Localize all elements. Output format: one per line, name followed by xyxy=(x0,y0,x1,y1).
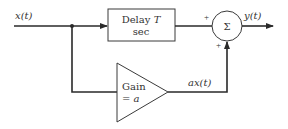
gain-label-line2: = a xyxy=(122,93,140,104)
delay-label-line2: sec xyxy=(133,26,150,37)
gain-output-label: ax(t) xyxy=(188,77,212,88)
sign-top: + xyxy=(204,12,209,22)
input-label: x(t) xyxy=(15,10,33,21)
output-label: y(t) xyxy=(243,10,262,21)
sigma-icon: Σ xyxy=(223,21,230,32)
delay-gain-block-diagram: x(t) Delay T sec + Σ y(t) Gain = a ax(t)… xyxy=(0,0,288,129)
delay-label-line1: Delay T xyxy=(122,14,162,25)
summer-node: Σ xyxy=(212,11,242,41)
sign-bottom: + xyxy=(216,40,221,50)
delay-block: Delay T sec xyxy=(108,9,175,41)
gain-label-line1: Gain xyxy=(122,81,146,92)
gain-block: Gain = a xyxy=(117,63,168,122)
